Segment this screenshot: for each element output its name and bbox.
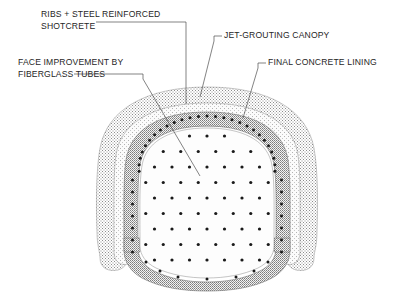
label-final-concrete-lining: FINAL CONCRETE LINING xyxy=(268,57,377,67)
tunnel-core-layer xyxy=(140,128,274,278)
fiberglass-tube-dot xyxy=(258,227,261,230)
shotcrete-bolt-dot xyxy=(131,239,134,242)
shotcrete-bolt-dot xyxy=(131,203,134,206)
fiberglass-tube-dot xyxy=(214,181,217,184)
shotcrete-bolt-dot xyxy=(139,157,142,160)
fiberglass-tube-dot xyxy=(179,150,182,153)
fiberglass-tube-dot xyxy=(144,212,147,215)
tunnel-core-shape xyxy=(140,128,274,278)
fiberglass-tube-dot xyxy=(223,165,226,168)
label-face-improvement-line1: FACE IMPROVEMENT BY xyxy=(18,57,123,67)
annotation-labels: RIBS + STEEL REINFORCED SHOTCRETE JET-GR… xyxy=(18,9,377,79)
fiberglass-tube-dot xyxy=(249,212,252,215)
fiberglass-tube-dot xyxy=(153,196,156,199)
shotcrete-bolt-dot xyxy=(206,115,209,118)
fiberglass-tube-dot xyxy=(170,227,173,230)
shotcrete-bolt-dot xyxy=(280,239,283,242)
shotcrete-bolt-dot xyxy=(231,118,234,121)
fiberglass-tube-dot xyxy=(214,212,217,215)
fiberglass-tube-dot xyxy=(205,134,208,137)
shotcrete-bolt-dot xyxy=(197,115,200,118)
shotcrete-bolt-dot xyxy=(245,124,248,127)
shotcrete-bolt-dot xyxy=(166,124,169,127)
shotcrete-bolt-dot xyxy=(131,179,134,182)
shotcrete-bolt-dot xyxy=(280,251,283,254)
fiberglass-tube-dot xyxy=(240,227,243,230)
fiberglass-tube-dot xyxy=(258,165,261,168)
fiberglass-tube-dot xyxy=(240,258,243,261)
shotcrete-bolt-dot xyxy=(159,129,162,132)
shotcrete-bolt-dot xyxy=(189,116,192,119)
shotcrete-bolt-dot xyxy=(273,170,276,173)
fiberglass-tube-dot xyxy=(144,243,147,246)
fiberglass-tube-dot xyxy=(232,243,235,246)
fiberglass-tube-dot xyxy=(197,243,200,246)
shotcrete-bolt-dot xyxy=(270,150,273,153)
fiberglass-tube-dot xyxy=(232,181,235,184)
shotcrete-bolt-dot xyxy=(273,163,276,166)
shotcrete-bolt-dot xyxy=(222,116,225,119)
fiberglass-tube-dot xyxy=(170,196,173,199)
fiberglass-tube-dot xyxy=(258,196,261,199)
fiberglass-tube-dot xyxy=(188,196,191,199)
fiberglass-tube-dot xyxy=(153,227,156,230)
shotcrete-bolt-dot xyxy=(173,121,176,124)
fiberglass-tube-dot xyxy=(267,212,270,215)
shotcrete-bolt-dot xyxy=(159,270,162,273)
fiberglass-tube-dot xyxy=(223,258,226,261)
fiberglass-tube-dot xyxy=(205,227,208,230)
leader-underline-jet xyxy=(214,36,222,41)
fiberglass-tube-dot xyxy=(179,212,182,215)
shotcrete-bolt-dot xyxy=(138,163,141,166)
shotcrete-bolt-dot xyxy=(214,115,217,118)
shotcrete-bolt-dot xyxy=(253,270,256,273)
tunnel-cross-section-diagram: RIBS + STEEL REINFORCED SHOTCRETE JET-GR… xyxy=(0,0,413,298)
shotcrete-bolt-dot xyxy=(177,276,180,279)
fiberglass-tube-dot xyxy=(170,258,173,261)
fiberglass-tube-dot xyxy=(214,243,217,246)
fiberglass-tube-dot xyxy=(258,258,261,261)
fiberglass-tube-dot xyxy=(267,243,270,246)
fiberglass-tube-dot xyxy=(188,134,191,137)
fiberglass-tube-dot xyxy=(249,243,252,246)
shotcrete-bolt-dot xyxy=(131,191,134,194)
shotcrete-bolt-dot xyxy=(280,179,283,182)
fiberglass-tube-dot xyxy=(232,150,235,153)
shotcrete-bolt-dot xyxy=(252,129,255,132)
fiberglass-tube-dot xyxy=(162,150,165,153)
fiberglass-tube-dot xyxy=(170,165,173,168)
fiberglass-tube-dot xyxy=(205,258,208,261)
fiberglass-tube-dot xyxy=(153,165,156,168)
fiberglass-tube-dot xyxy=(205,165,208,168)
fiberglass-tube-dot xyxy=(162,243,165,246)
label-ribs-shotcrete-line2: SHOTCRETE xyxy=(41,21,95,31)
shotcrete-bolt-dot xyxy=(131,227,134,230)
shotcrete-bolt-dot xyxy=(206,278,209,281)
shotcrete-bolt-dot xyxy=(138,170,141,173)
fiberglass-tube-dot xyxy=(197,181,200,184)
fiberglass-tube-dot xyxy=(223,196,226,199)
shotcrete-bolt-dot xyxy=(141,150,144,153)
shotcrete-bolt-dot xyxy=(280,215,283,218)
fiberglass-tube-dot xyxy=(249,181,252,184)
fiberglass-tube-dot xyxy=(249,150,252,153)
shotcrete-bolt-dot xyxy=(280,227,283,230)
fiberglass-tube-dot xyxy=(179,243,182,246)
fiberglass-tube-dot xyxy=(188,227,191,230)
shotcrete-bolt-dot xyxy=(131,215,134,218)
shotcrete-bolt-dot xyxy=(148,139,151,142)
shotcrete-bolt-dot xyxy=(235,276,238,279)
shotcrete-bolt-dot xyxy=(267,144,270,147)
fiberglass-tube-dot xyxy=(240,196,243,199)
fiberglass-tube-dot xyxy=(197,212,200,215)
shotcrete-bolt-dot xyxy=(258,133,261,136)
fiberglass-tube-dot xyxy=(267,181,270,184)
fiberglass-tube-dot xyxy=(162,212,165,215)
fiberglass-tube-dot xyxy=(205,196,208,199)
fiberglass-tube-dot xyxy=(240,165,243,168)
fiberglass-tube-dot xyxy=(223,134,226,137)
shotcrete-bolt-dot xyxy=(272,157,275,160)
fiberglass-tube-dot xyxy=(144,181,147,184)
shotcrete-bolt-dot xyxy=(131,251,134,254)
shotcrete-bolt-dot xyxy=(144,144,147,147)
